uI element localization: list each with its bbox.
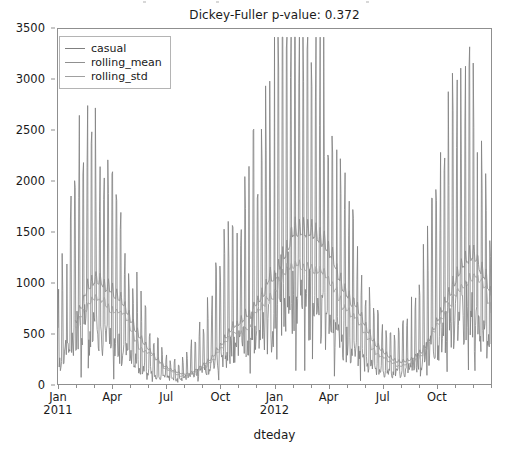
- x-tick-label: Jan 2011: [43, 391, 72, 416]
- x-tick-label: Jul: [159, 391, 173, 404]
- legend-line-icon: [65, 48, 85, 49]
- capture-artifact: [143, 1, 146, 3]
- y-tick-mark: [51, 79, 55, 80]
- x-tick-mark-minor: [76, 385, 77, 388]
- y-tick-label: 0: [38, 378, 45, 392]
- x-tick-mark-minor: [311, 385, 312, 388]
- x-tick-mark-minor: [293, 385, 294, 388]
- x-tick-mark-minor: [184, 385, 185, 388]
- y-tick-label: 2000: [16, 174, 45, 188]
- y-tick-label: 500: [23, 327, 45, 341]
- x-tick-mark: [329, 385, 330, 389]
- x-tick-mark-minor: [202, 385, 203, 388]
- y-tick-mark: [51, 232, 55, 233]
- x-tick-mark: [112, 385, 113, 389]
- x-tick-mark: [437, 385, 438, 389]
- x-axis: Jan 2011AprJulOctJan 2012AprJulOct: [57, 385, 492, 431]
- x-tick-mark-minor: [455, 385, 456, 388]
- x-tick-label: Apr: [102, 391, 122, 404]
- x-tick-label: Jul: [376, 391, 390, 404]
- y-tick-mark: [51, 385, 55, 386]
- x-tick-mark-minor: [148, 385, 149, 388]
- x-tick-label: Oct: [427, 391, 447, 404]
- x-tick-mark-minor: [419, 385, 420, 388]
- legend-item: rolling_std: [65, 69, 162, 83]
- x-tick-mark-minor: [256, 385, 257, 388]
- x-tick-mark-minor: [401, 385, 402, 388]
- legend-label: casual: [91, 42, 126, 55]
- legend-label: rolling_std: [91, 70, 148, 83]
- legend-line-icon: [65, 62, 85, 63]
- y-tick-label: 1000: [16, 276, 45, 290]
- legend-label: rolling_mean: [91, 56, 162, 69]
- x-tick-mark-minor: [94, 385, 95, 388]
- y-tick-mark: [51, 283, 55, 284]
- y-tick-label: 1500: [16, 225, 45, 239]
- x-tick-mark: [58, 385, 59, 389]
- y-axis: 0500100015002000250030003500: [0, 28, 51, 385]
- legend-line-icon: [65, 76, 85, 77]
- x-tick-mark: [275, 385, 276, 389]
- x-tick-mark-minor: [130, 385, 131, 388]
- legend-item: rolling_mean: [65, 55, 162, 69]
- legend: casualrolling_meanrolling_std: [59, 36, 171, 89]
- x-axis-label: dteday: [57, 428, 492, 442]
- capture-artifact: [366, 1, 369, 3]
- y-tick-mark: [51, 334, 55, 335]
- matplotlib-figure: Dickey-Fuller p-value: 0.372 05001000150…: [0, 0, 512, 464]
- x-tick-mark-minor: [473, 385, 474, 388]
- y-tick-mark: [51, 130, 55, 131]
- legend-item: casual: [65, 41, 162, 55]
- x-tick-mark-minor: [347, 385, 348, 388]
- x-tick-mark: [166, 385, 167, 389]
- x-tick-mark: [383, 385, 384, 389]
- x-tick-label: Jan 2012: [260, 391, 289, 416]
- x-tick-mark-minor: [491, 385, 492, 388]
- x-tick-mark: [220, 385, 221, 389]
- x-tick-label: Oct: [210, 391, 230, 404]
- x-tick-mark-minor: [365, 385, 366, 388]
- x-tick-label: Apr: [319, 391, 339, 404]
- y-tick-label: 3500: [16, 21, 45, 35]
- y-tick-label: 2500: [16, 123, 45, 137]
- capture-artifact: [216, 1, 219, 3]
- y-tick-mark: [51, 28, 55, 29]
- y-tick-label: 3000: [16, 72, 45, 86]
- x-tick-mark-minor: [238, 385, 239, 388]
- y-tick-mark: [51, 181, 55, 182]
- chart-title: Dickey-Fuller p-value: 0.372: [57, 8, 492, 22]
